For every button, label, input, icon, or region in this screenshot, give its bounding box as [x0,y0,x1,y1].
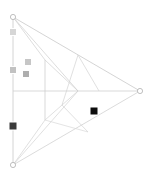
marker-axis-mid[interactable] [10,67,17,74]
edge-layer [13,17,140,165]
upper-panel-spine [78,55,99,91]
diagram-canvas [0,0,152,182]
lower-panel-edge [45,120,88,132]
bottom-to-arrow-apex [13,91,78,165]
top-to-interior-upper [13,17,45,60]
vertex-bottom-left[interactable] [10,162,15,167]
wireframe-svg [0,0,152,182]
vertex-top-left[interactable] [10,14,15,19]
marker-layer [9,29,98,131]
vertex-right-apex[interactable] [137,88,142,93]
marker-float-lower[interactable] [23,71,30,78]
marker-axis-dark[interactable] [9,122,17,130]
top-to-right-vertex [13,17,140,91]
top-to-arrow-apex [13,17,78,91]
marker-axis-upper[interactable] [10,29,17,36]
upper-panel-diagonal [62,55,78,105]
bottom-to-right-vertex [13,91,140,165]
lower-fold-crease [45,91,78,120]
bottom-to-interior-lower [13,120,45,165]
marker-field-black[interactable] [90,107,98,115]
lower-panel-diagonal [62,105,88,132]
upper-fold-crease [45,60,78,91]
marker-float-upper[interactable] [25,59,32,66]
